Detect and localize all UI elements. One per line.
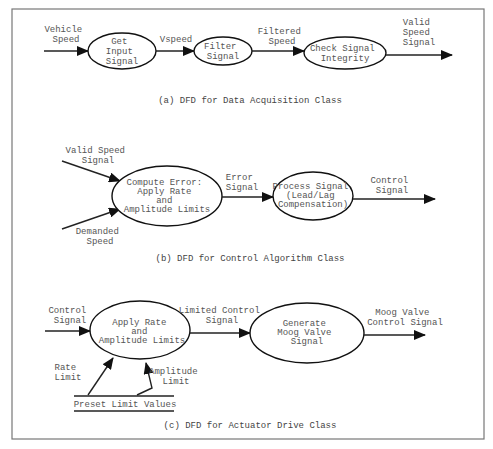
figure-frame [12, 9, 484, 439]
flow-label-control-signal-out: Control Signal [370, 176, 413, 196]
caption-a: (a) DFD for Data Acquisition Class [158, 96, 342, 106]
data-store-label: Preset Limit Values [74, 400, 177, 410]
flow-label-control-signal-in: Control Signal [48, 306, 91, 326]
flow-label-demanded-speed: Demanded Speed [76, 227, 125, 247]
data-store-preset-limit-values: Preset Limit Values [74, 396, 177, 411]
flow-rate-limit [88, 358, 113, 395]
flow-label-valid-speed-signal: Valid Speed Signal [403, 18, 435, 48]
caption-c: (c) DFD for Actuator Drive Class [164, 421, 337, 431]
flow-label-moog-valve-control-signal: Moog Valve Control Signal [367, 308, 443, 328]
dfd-actuator-drive: Control Signal Apply Rate and Amplitude … [45, 301, 443, 431]
flow-label-filtered-speed: Filtered Speed [258, 27, 307, 47]
dfd-control-algorithm: Valid Speed Signal Demanded Speed Comput… [62, 146, 435, 264]
dfd-figure: Vehicle Speed Get Input Signal Vspeed Fi… [0, 0, 493, 449]
flow-label-vehicle-speed: Vehicle Speed [44, 25, 87, 45]
dfd-data-acquisition: Vehicle Speed Get Input Signal Vspeed Fi… [44, 18, 452, 106]
flow-label-valid-speed-signal-in: Valid Speed Signal [66, 146, 131, 166]
flow-label-amplitude-limit: Amplitude Limit [149, 367, 203, 387]
flow-demanded-speed [62, 209, 120, 229]
caption-b: (b) DFD for Control Algorithm Class [155, 254, 344, 264]
process-label-filter-signal: Filter Signal [204, 42, 242, 62]
flow-label-vspeed: Vspeed [160, 35, 192, 45]
flow-label-rate-limit: Rate Limit [54, 363, 81, 383]
flow-label-error-signal: Error Signal [226, 173, 258, 193]
